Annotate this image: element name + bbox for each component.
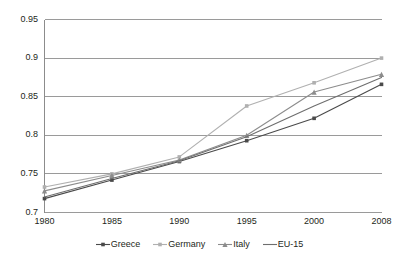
x-axis-tick-label: 2008 bbox=[352, 216, 399, 226]
data-point-greece-1995 bbox=[245, 139, 249, 143]
legend-item-eu-15[interactable]: EU-15 bbox=[263, 239, 304, 249]
data-point-germany-2000 bbox=[312, 81, 316, 85]
data-point-greece-2000 bbox=[312, 117, 316, 121]
legend-item-greece[interactable]: Greece bbox=[96, 239, 141, 249]
y-axis-tick-label: 0.85 bbox=[0, 91, 38, 101]
data-point-greece-2008 bbox=[380, 83, 384, 87]
data-point-germany-1995 bbox=[245, 104, 249, 108]
x-axis-tick-label: 1985 bbox=[82, 216, 142, 226]
series-line-greece bbox=[45, 84, 382, 198]
y-axis-tick-label: 0.8 bbox=[0, 129, 38, 139]
legend-label-italy: Italy bbox=[233, 239, 250, 249]
y-axis-tick-label: 0.9 bbox=[0, 52, 38, 62]
x-axis-tick-label: 1990 bbox=[149, 216, 209, 226]
y-axis-tick-label: 0.75 bbox=[0, 168, 38, 178]
legend-swatch-italy-icon bbox=[218, 240, 232, 249]
legend-swatch-eu-15-icon bbox=[263, 240, 277, 249]
chart-legend: GreeceGermanyItalyEU-15 bbox=[0, 239, 399, 249]
x-axis-tick-label: 2000 bbox=[284, 216, 344, 226]
series-line-italy bbox=[45, 74, 382, 191]
series-line-germany bbox=[45, 58, 382, 187]
y-axis-tick-label: 0.7 bbox=[0, 207, 38, 217]
data-point-germany-2008 bbox=[380, 56, 384, 60]
legend-label-germany: Germany bbox=[168, 239, 205, 249]
legend-item-germany[interactable]: Germany bbox=[153, 239, 205, 249]
legend-swatch-germany-icon bbox=[153, 240, 167, 249]
x-axis-tick-label: 1980 bbox=[15, 216, 75, 226]
x-axis-tick-label: 1995 bbox=[217, 216, 277, 226]
legend-label-greece: Greece bbox=[111, 239, 141, 249]
legend-item-italy[interactable]: Italy bbox=[218, 239, 250, 249]
line-chart: 0.70.750.80.850.90.951980198519901995200… bbox=[0, 0, 399, 262]
legend-swatch-greece-icon bbox=[96, 240, 110, 249]
legend-label-eu-15: EU-15 bbox=[278, 239, 304, 249]
y-axis-tick-label: 0.95 bbox=[0, 14, 38, 24]
